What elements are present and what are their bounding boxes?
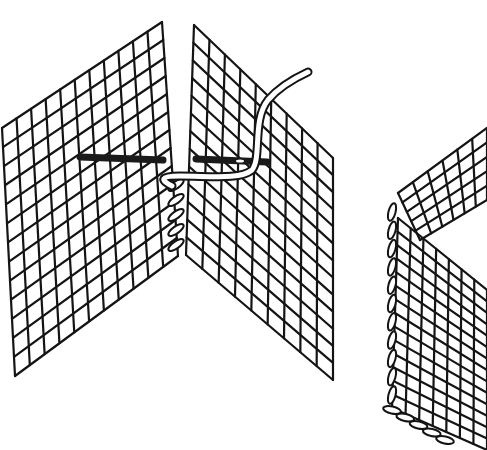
mesh-panels — [2, 22, 487, 450]
needle-eye-icon — [236, 160, 244, 163]
box-edge-stitch — [386, 349, 397, 368]
needle-group — [80, 157, 267, 163]
box-edge-stitch — [386, 331, 397, 350]
canvas-joining-illustration — [0, 0, 487, 450]
box-edge-stitch — [386, 221, 397, 240]
box-top-panel — [398, 128, 487, 240]
seam-stitch — [167, 192, 186, 208]
overcast-stitches — [167, 177, 455, 445]
right-canvas-panel — [186, 25, 333, 380]
box-edge-stitch — [386, 202, 397, 221]
box-edge-stitch — [386, 385, 397, 404]
needle-left-segment — [80, 157, 163, 160]
box-bottom-stitch — [435, 435, 454, 446]
left-canvas-panel — [2, 22, 178, 376]
